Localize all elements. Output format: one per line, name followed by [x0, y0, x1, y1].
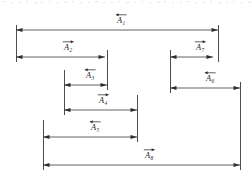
label-subscript-A5: 5 — [97, 127, 100, 133]
scan-speck — [64, 2, 67, 3]
vector-arrowtip-right-A7 — [203, 40, 206, 43]
label-symbol-A5: A5 — [90, 123, 100, 133]
label-subscript-A7: 7 — [202, 47, 205, 53]
dimension-arrowhead-left-A6 — [170, 86, 177, 90]
dimension-arrowhead-right-A8 — [234, 163, 241, 167]
vector-arrowtip-right-A2 — [71, 40, 74, 43]
scan-speck — [218, 2, 221, 3]
scan-speck — [72, 1, 74, 2]
label-subscript-A8: 8 — [151, 155, 154, 161]
scan-speck — [118, 1, 120, 2]
dimension-arrowhead-right-A6 — [234, 86, 241, 90]
dimension-arrowhead-right-A2 — [99, 55, 106, 59]
scan-speck — [49, 1, 51, 2]
label-subscript-A1: 1 — [123, 20, 126, 26]
dimension-chain-diagram: A1A2A7A3A6A4A5A8 — [0, 0, 252, 181]
scan-speck — [26, 1, 28, 2]
label-symbol-A4: A4 — [98, 96, 108, 106]
dimension-arrowhead-left-A4 — [64, 108, 71, 112]
vector-arrowtip-right-A4 — [106, 93, 109, 96]
dimension-arrowhead-left-A8 — [43, 163, 50, 167]
label-subscript-A2: 2 — [70, 47, 73, 53]
scan-speck — [126, 2, 129, 3]
scan-speck — [187, 1, 190, 2]
scan-speck — [57, 2, 59, 3]
scan-speck — [203, 2, 205, 3]
label-symbol-A8: A8 — [144, 151, 154, 161]
scan-artifacts — [3, 1, 251, 3]
dimension-A4 — [64, 108, 137, 112]
label-A7: A7 — [195, 40, 206, 53]
scan-speck — [241, 2, 243, 3]
scan-speck — [11, 2, 13, 3]
dimension-arrowhead-left-A7 — [170, 55, 177, 59]
diagram-canvas: A1A2A7A3A6A4A5A8 — [0, 0, 252, 181]
dimension-arrowhead-right-A7 — [207, 55, 214, 59]
dimension-labels-group: A1A2A7A3A6A4A5A8 — [63, 13, 216, 161]
extension-lines-group — [16, 25, 240, 170]
scan-speck — [41, 2, 43, 3]
label-A5: A5 — [90, 120, 101, 133]
label-symbol-A1: A1 — [116, 16, 126, 26]
label-symbol-A6: A6 — [205, 74, 215, 84]
scan-speck — [141, 1, 143, 2]
scan-speck — [149, 2, 151, 3]
label-A3: A3 — [85, 68, 96, 81]
scan-speck — [3, 1, 6, 2]
dimension-arrowhead-left-A5 — [43, 135, 50, 139]
dimension-arrowhead-left-A2 — [16, 55, 23, 59]
scan-speck — [134, 2, 136, 3]
dimension-A1 — [16, 28, 218, 32]
dimension-A3 — [64, 83, 107, 87]
dimension-lines-group — [16, 28, 240, 167]
dimension-A2 — [16, 55, 105, 59]
dimension-arrowhead-right-A5 — [131, 135, 138, 139]
label-symbol-A3: A3 — [85, 71, 95, 81]
dimension-arrowhead-left-A1 — [16, 28, 23, 32]
label-subscript-A4: 4 — [105, 100, 108, 106]
label-A4: A4 — [98, 93, 109, 106]
dimension-arrowhead-right-A1 — [212, 28, 219, 32]
dimension-arrowhead-right-A4 — [131, 108, 138, 112]
label-A6: A6 — [205, 71, 216, 84]
dimension-A6 — [170, 86, 240, 90]
scan-speck — [164, 1, 166, 2]
scan-speck — [180, 2, 182, 3]
vector-arrowtip-right-A8 — [152, 148, 155, 151]
scan-speck — [111, 2, 113, 3]
label-A2: A2 — [63, 40, 74, 53]
scan-speck — [226, 2, 228, 3]
scan-speck — [233, 1, 235, 2]
dimension-A8 — [43, 163, 240, 167]
scan-speck — [157, 2, 160, 3]
scan-speck — [103, 2, 105, 3]
scan-speck — [34, 2, 37, 3]
label-symbol-A7: A7 — [195, 43, 205, 53]
label-subscript-A3: 3 — [92, 75, 95, 81]
dimension-A7 — [170, 55, 213, 59]
scan-speck — [195, 2, 197, 3]
dimension-A5 — [43, 135, 137, 139]
scan-speck — [19, 2, 21, 3]
label-subscript-A6: 6 — [212, 78, 215, 84]
dimension-arrowhead-right-A3 — [101, 83, 108, 87]
scan-speck — [172, 2, 174, 3]
scan-speck — [88, 2, 90, 3]
dimension-arrowhead-left-A3 — [64, 83, 71, 87]
label-A1: A1 — [116, 13, 127, 26]
label-symbol-A2: A2 — [63, 43, 73, 53]
scan-speck — [80, 2, 82, 3]
scan-speck — [95, 1, 98, 2]
scan-speck — [210, 1, 212, 2]
label-A8: A8 — [144, 148, 155, 161]
scan-speck — [248, 2, 251, 3]
